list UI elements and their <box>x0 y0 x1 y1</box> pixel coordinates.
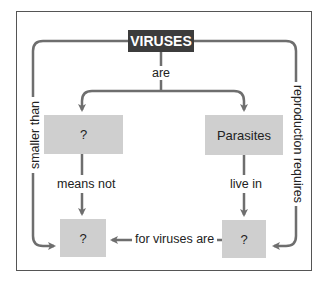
node-viruses: VIRUSES <box>128 30 194 52</box>
link-label-live-in: live in <box>228 175 264 193</box>
node-viruses-label: VIRUSES <box>130 33 191 49</box>
node-left-mid-label: ? <box>80 127 87 142</box>
node-parasites: Parasites <box>205 115 283 155</box>
node-left-mid: ? <box>44 115 123 154</box>
link-label-means-not: means not <box>55 175 117 193</box>
node-bottom-left: ? <box>60 219 106 257</box>
link-label-smaller-than: smaller than <box>28 97 42 173</box>
node-bottom-left-label: ? <box>79 231 86 246</box>
link-label-reproduction-requires: reproduction requires <box>291 82 305 206</box>
line-are-left <box>82 91 161 110</box>
link-label-are: are <box>150 66 172 80</box>
line-are-right <box>161 91 244 110</box>
node-bottom-right-label: ? <box>240 232 247 247</box>
node-parasites-label: Parasites <box>217 128 271 143</box>
link-label-for-viruses-are: for viruses are <box>132 232 217 246</box>
node-bottom-right: ? <box>222 220 266 258</box>
